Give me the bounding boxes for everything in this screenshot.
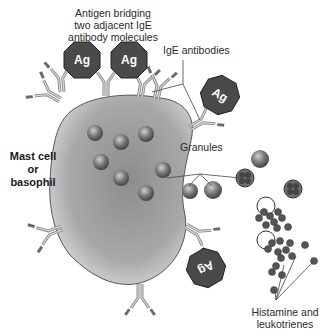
label-line: or — [8, 163, 58, 176]
label-line: Histamine and — [240, 306, 330, 318]
label-granules: Granules — [180, 141, 223, 153]
label-line: Mast cell — [8, 150, 58, 163]
label-antigen-bridging: Antigen bridging two adjacent IgE antibo… — [58, 7, 168, 43]
label-line: basophil — [8, 176, 58, 189]
mediator-particles — [256, 209, 318, 294]
label-line: two adjacent IgE — [58, 19, 168, 31]
svg-text:Ag: Ag — [74, 53, 90, 67]
label-histamine-leukotrienes: Histamine and leukotrienes — [240, 306, 330, 330]
label-line: leukotrienes — [240, 318, 330, 330]
antigen-icon: Ag — [64, 42, 100, 78]
granules-released — [204, 150, 302, 249]
degranulating-granule — [284, 180, 302, 198]
antigen-icon: Ag — [111, 42, 147, 78]
mast-cell-body — [50, 95, 193, 284]
label-ige-antibodies: IgE antibodies — [163, 44, 230, 56]
antigen-icon: Ag — [181, 243, 230, 292]
svg-text:Ag: Ag — [121, 53, 137, 67]
label-line: Antigen bridging — [58, 7, 168, 19]
label-line: antibody molecules — [58, 31, 168, 43]
ige-antibody — [124, 284, 156, 316]
label-mast-cell: Mast cell or basophil — [8, 150, 58, 189]
